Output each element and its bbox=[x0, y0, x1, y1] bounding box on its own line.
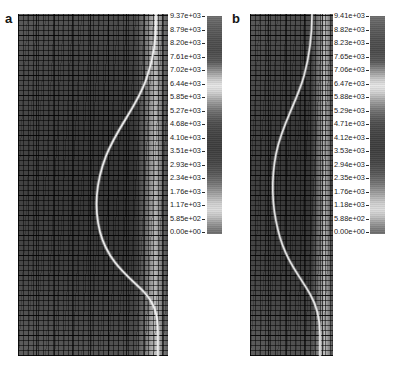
colorbar-tick-mark bbox=[366, 70, 369, 71]
colorbar-tick-mark bbox=[202, 178, 205, 179]
colorbar-tick-mark bbox=[202, 97, 205, 98]
colorbar-tick-label: 7.61e+03 bbox=[170, 53, 201, 60]
colorbar-tick-label: 3.51e+03 bbox=[170, 147, 201, 154]
colorbar-tick-label: 5.88e+02 bbox=[334, 215, 365, 222]
colorbar-tick-mark bbox=[202, 124, 205, 125]
colorbar-tick-mark bbox=[366, 138, 369, 139]
colorbar-tick-label: 5.88e+03 bbox=[334, 93, 365, 100]
colorbar-tick-mark bbox=[202, 84, 205, 85]
colorbar-tick-mark bbox=[202, 232, 205, 233]
colorbar-tick-label: 4.12e+03 bbox=[334, 134, 365, 141]
colorbar-tick-mark bbox=[202, 192, 205, 193]
colorbar-tick-label: 3.53e+03 bbox=[334, 147, 365, 154]
colorbar-tick-label: 4.68e+03 bbox=[170, 120, 201, 127]
colorbar-tick-mark bbox=[202, 165, 205, 166]
colorbar-tick-label: 7.06e+03 bbox=[334, 66, 365, 73]
colorbar-tick-label: 1.76e+03 bbox=[170, 188, 201, 195]
colorbar-tick-label: 9.41e+03 bbox=[334, 12, 365, 19]
panel-b-colorbar-ticklabels: 9.41e+038.82e+038.23e+037.65e+037.06e+03… bbox=[334, 14, 365, 236]
colorbar-tick-label: 7.65e+03 bbox=[334, 53, 365, 60]
panel-b-colorbar-texture bbox=[370, 16, 385, 234]
colorbar-tick-label: 2.93e+03 bbox=[170, 161, 201, 168]
colorbar-tick-label: 8.79e+03 bbox=[170, 26, 201, 33]
colorbar-tick-mark bbox=[366, 205, 369, 206]
colorbar-tick-label: 2.34e+03 bbox=[170, 174, 201, 181]
colorbar-tick-label: 6.47e+03 bbox=[334, 80, 365, 87]
colorbar-tick-mark bbox=[202, 205, 205, 206]
colorbar-tick-mark bbox=[366, 219, 369, 220]
colorbar-tick-mark bbox=[366, 57, 369, 58]
panel-b-colorbar bbox=[370, 16, 385, 234]
colorbar-tick-label: 5.27e+03 bbox=[170, 107, 201, 114]
colorbar-tick-mark bbox=[366, 43, 369, 44]
colorbar-tick-label: 7.02e+03 bbox=[170, 66, 201, 73]
colorbar-tick-mark bbox=[202, 57, 205, 58]
colorbar-tick-mark bbox=[366, 111, 369, 112]
colorbar-tick-label: 1.18e+03 bbox=[334, 201, 365, 208]
colorbar-tick-mark bbox=[366, 16, 369, 17]
colorbar-tick-mark bbox=[202, 30, 205, 31]
colorbar-tick-mark bbox=[202, 70, 205, 71]
colorbar-tick-mark bbox=[202, 151, 205, 152]
panel-b-localisation-band bbox=[250, 14, 333, 356]
colorbar-tick-label: 0.00e+00 bbox=[334, 228, 365, 235]
colorbar-tick-label: 5.29e+03 bbox=[334, 107, 365, 114]
figure-canvas: a 9.37e+038.79e+038.20e+037.61e+037.02e+… bbox=[0, 0, 397, 373]
colorbar-tick-label: 2.35e+03 bbox=[334, 174, 365, 181]
colorbar-tick-label: 1.76e+03 bbox=[334, 188, 365, 195]
colorbar-tick-mark bbox=[202, 138, 205, 139]
colorbar-tick-mark bbox=[202, 111, 205, 112]
panel-letter-a: a bbox=[5, 12, 12, 25]
colorbar-tick-label: 1.17e+03 bbox=[170, 201, 201, 208]
colorbar-tick-label: 8.23e+03 bbox=[334, 39, 365, 46]
panel-a-localisation-band bbox=[18, 14, 168, 356]
colorbar-tick-label: 2.94e+03 bbox=[334, 161, 365, 168]
colorbar-tick-mark bbox=[202, 43, 205, 44]
colorbar-tick-mark bbox=[366, 192, 369, 193]
colorbar-tick-mark bbox=[366, 124, 369, 125]
panel-a-colorbar bbox=[207, 16, 222, 234]
colorbar-tick-mark bbox=[366, 232, 369, 233]
colorbar-tick-label: 8.20e+03 bbox=[170, 39, 201, 46]
colorbar-tick-label: 0.00e+00 bbox=[170, 228, 201, 235]
colorbar-tick-label: 9.37e+03 bbox=[170, 12, 201, 19]
colorbar-tick-mark bbox=[366, 165, 369, 166]
colorbar-tick-mark bbox=[202, 16, 205, 17]
colorbar-tick-mark bbox=[202, 219, 205, 220]
colorbar-tick-label: 5.85e+02 bbox=[170, 215, 201, 222]
colorbar-tick-mark bbox=[366, 30, 369, 31]
colorbar-tick-label: 8.82e+03 bbox=[334, 26, 365, 33]
panel-b-contour-field bbox=[250, 14, 333, 356]
colorbar-tick-label: 5.85e+03 bbox=[170, 93, 201, 100]
colorbar-tick-mark bbox=[366, 151, 369, 152]
panel-letter-b: b bbox=[232, 12, 240, 25]
colorbar-tick-label: 4.10e+03 bbox=[170, 134, 201, 141]
panel-a-colorbar-ticklabels: 9.37e+038.79e+038.20e+037.61e+037.02e+03… bbox=[170, 14, 201, 236]
colorbar-tick-mark bbox=[366, 178, 369, 179]
panel-a-colorbar-texture bbox=[207, 16, 222, 234]
panel-a-contour-field bbox=[18, 14, 168, 356]
colorbar-tick-mark bbox=[366, 97, 369, 98]
colorbar-tick-label: 6.44e+03 bbox=[170, 80, 201, 87]
colorbar-tick-label: 4.71e+03 bbox=[334, 120, 365, 127]
colorbar-tick-mark bbox=[366, 84, 369, 85]
